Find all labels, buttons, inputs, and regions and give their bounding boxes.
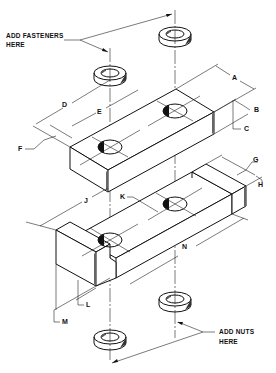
dim-label-e: E [97,108,102,115]
dim-label-h: H [258,181,263,188]
dim-label-g: G [253,156,259,163]
lower-channel [56,164,246,286]
nuts-note-line2: HERE [219,338,238,345]
dim-label-m: M [62,318,68,325]
dim-label-n: N [182,243,187,250]
dim-label-k: K [120,193,125,200]
fasteners-note-line1: ADD FASTENERS [6,32,64,39]
fasteners-note-line2: HERE [6,41,25,48]
dim-label-f: F [18,145,23,152]
dim-label-b: B [254,106,259,113]
dim-label-d: D [62,101,67,108]
nuts-note-line1: ADD NUTS [219,328,255,335]
technical-drawing: ADD FASTENERS HERE [0,0,276,373]
dim-label-l: L [86,301,91,308]
dim-label-a: A [232,74,237,81]
dim-label-c: C [244,125,249,132]
dim-label-j: J [84,197,88,204]
fasteners-note: ADD FASTENERS HERE [6,14,172,52]
nuts-note: ADD NUTS HERE [112,322,255,363]
